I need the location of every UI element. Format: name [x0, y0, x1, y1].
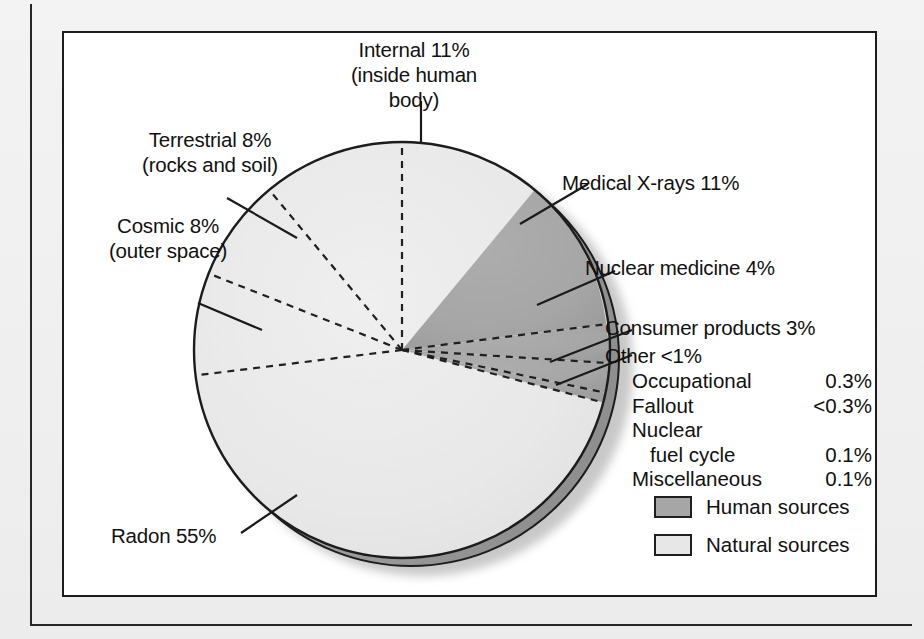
page-rule-bottom [30, 624, 912, 626]
other-breakdown-name: Fallout [632, 394, 694, 419]
label-nuclear-medicine: Nuclear medicine 4% [585, 255, 775, 280]
legend-item: Human sources [654, 496, 850, 518]
other-breakdown-row: fuel cycle0.1% [632, 443, 872, 468]
other-breakdown-row: Nuclear [632, 418, 872, 443]
other-breakdown-value: 0.3% [798, 369, 872, 394]
other-breakdown-value: 0.1% [798, 467, 872, 492]
figure-inner: Internal 11% (inside human body) Terrest… [64, 33, 875, 595]
legend-item: Natural sources [654, 534, 850, 556]
other-breakdown-name: Miscellaneous [632, 467, 762, 492]
other-breakdown-row: Occupational0.3% [632, 369, 872, 394]
page-rule-left [30, 4, 32, 626]
label-other: Other <1% [605, 343, 702, 368]
other-breakdown-name: Occupational [632, 369, 752, 394]
other-breakdown-table: Occupational0.3%Fallout<0.3%Nuclearfuel … [632, 369, 872, 492]
other-breakdown-row: Fallout<0.3% [632, 394, 872, 419]
legend-swatch-icon [654, 534, 692, 556]
label-cosmic: Cosmic 8% (outer space) [68, 213, 268, 263]
legend-label: Human sources [706, 496, 850, 518]
label-consumer-products: Consumer products 3% [605, 315, 815, 340]
other-breakdown-value: 0.1% [798, 443, 872, 468]
legend: Human sourcesNatural sources [654, 496, 850, 572]
label-radon: Radon 55% [111, 523, 216, 548]
legend-swatch-icon [654, 496, 692, 518]
label-terrestrial: Terrestrial 8% (rocks and soil) [90, 127, 330, 177]
other-breakdown-value [798, 418, 872, 443]
legend-label: Natural sources [706, 534, 850, 556]
other-breakdown-name: fuel cycle [632, 443, 735, 468]
label-medical-xrays: Medical X-rays 11% [562, 170, 739, 195]
other-breakdown-value: <0.3% [798, 394, 872, 419]
other-breakdown-name: Nuclear [632, 418, 703, 443]
figure-frame: Internal 11% (inside human body) Terrest… [62, 31, 877, 597]
other-breakdown-row: Miscellaneous0.1% [632, 467, 872, 492]
label-internal: Internal 11% (inside human body) [289, 37, 539, 112]
